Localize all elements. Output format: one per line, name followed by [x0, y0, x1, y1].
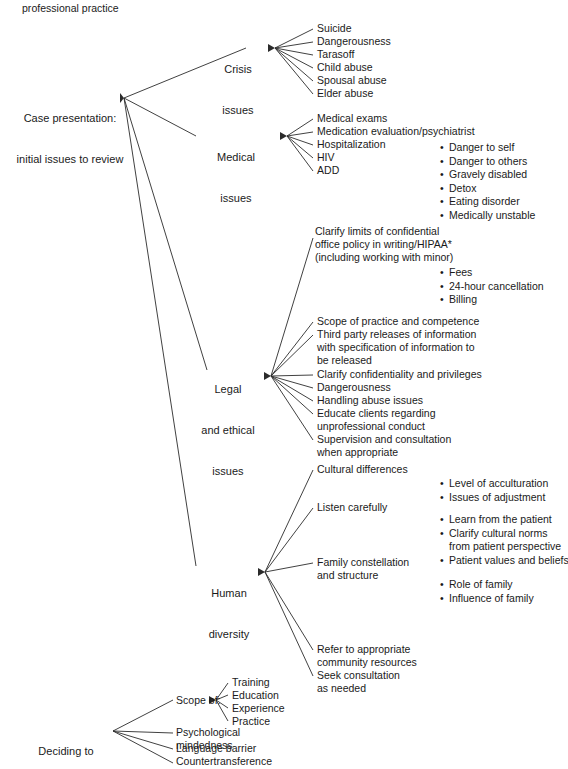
legal-label-line2: and ethical — [192, 424, 264, 438]
list-item: •Role of family — [440, 578, 534, 592]
bullet-text: Danger to others — [449, 155, 527, 167]
bullet-text: Gravely disabled — [449, 168, 527, 180]
medical-item: ADD — [317, 164, 339, 177]
legal-item-confidentiality: Clarify confidentiality and privileges — [317, 368, 482, 381]
page-header-fragment: professional practice — [22, 2, 119, 15]
bullet-dot: • — [440, 491, 444, 505]
list-item: •Danger to self — [440, 141, 535, 155]
bullet-dot: • — [440, 266, 444, 280]
legal-bullet-list-fees: •Fees •24-hour cancellation •Billing — [440, 266, 544, 307]
medical-item: HIV — [317, 151, 335, 164]
bullet-text: Learn from the patient — [449, 513, 552, 525]
diversity-bullet-group-acculturation: •Level of acculturation •Issues of adjus… — [440, 477, 548, 504]
bullet-dot: • — [440, 513, 444, 527]
legal-item-educate: Educate clients regarding unprofessional… — [317, 407, 436, 433]
legal-item-supervision: Supervision and consultation when approp… — [317, 433, 451, 459]
crisis-label-line1: Crisis — [208, 63, 268, 77]
bullet-text: Detox — [449, 182, 476, 194]
diversity-bullet-group-cultural-norms: •Learn from the patient •Clarify cultura… — [440, 513, 568, 567]
diversity-item-text: Refer to appropriate community resources — [317, 643, 417, 669]
list-item: •Fees — [440, 266, 544, 280]
medical-bullet-list: •Danger to self •Danger to others •Grave… — [440, 141, 535, 223]
bullet-text: Role of family — [449, 578, 513, 590]
bullet-text: Patient values and beliefs — [449, 554, 568, 566]
bullet-text: Fees — [449, 266, 472, 278]
legal-item-text: Third party releases of information with… — [317, 328, 476, 368]
legal-item-scope: Scope of practice and competence — [317, 315, 479, 328]
bullet-text: Medically unstable — [449, 209, 535, 221]
bullet-dot: • — [440, 527, 444, 541]
list-item: •Medically unstable — [440, 209, 535, 223]
deciding-item-countertransference: Countertransference — [176, 755, 272, 768]
bullet-dot: • — [440, 477, 444, 491]
diversity-item-seek-consultation: Seek consultation as needed — [317, 669, 400, 695]
medical-item: Medical exams — [317, 112, 387, 125]
medical-label-line1: Medical — [200, 151, 272, 165]
bullet-dot: • — [440, 293, 444, 307]
bullet-dot: • — [440, 280, 444, 294]
diversity-item-family: Family constellation and structure — [317, 556, 409, 582]
crisis-item: Suicide — [317, 22, 352, 35]
bullet-text: Influence of family — [449, 592, 534, 604]
list-item: •Issues of adjustment — [440, 491, 548, 505]
list-item: •Learn from the patient — [440, 513, 568, 527]
legal-label-line1: Legal — [192, 383, 264, 397]
list-item: •24-hour cancellation — [440, 280, 544, 294]
scope-item: Experience — [232, 702, 285, 715]
diversity-label-line2: diversity — [194, 628, 264, 642]
diversity-bullet-group-family: •Role of family •Influence of family — [440, 578, 534, 605]
scope-item: Education — [232, 689, 279, 702]
diversity-label-line1: Human — [194, 587, 264, 601]
crisis-item: Tarasoff — [317, 48, 354, 61]
diversity-item-cultural-differences: Cultural differences — [317, 463, 408, 476]
list-item: •Gravely disabled — [440, 168, 535, 182]
list-item: •Danger to others — [440, 155, 535, 169]
bullet-dot: • — [440, 578, 444, 592]
list-item: •Patient values and beliefs — [440, 554, 568, 568]
deciding-item-language-barrier: Language barrier — [176, 742, 256, 755]
crisis-item: Child abuse — [317, 61, 373, 74]
bullet-dot: • — [440, 592, 444, 606]
root-node-deciding: Deciding to accept the case — [18, 718, 114, 769]
branch-node-scope-of: Scope of: — [176, 694, 221, 707]
crisis-item: Elder abuse — [317, 87, 373, 100]
legal-item-confidentiality-limits: Clarify limits of confidential office po… — [315, 225, 453, 265]
bullet-text: 24-hour cancellation — [449, 280, 544, 292]
bullet-text: Clarify cultural norms from patient pers… — [449, 527, 561, 553]
bullet-text: Danger to self — [449, 141, 514, 153]
bullet-text: Eating disorder — [449, 195, 520, 207]
legal-item-text: Educate clients regarding unprofessional… — [317, 407, 436, 433]
bullet-dot: • — [440, 141, 444, 155]
branch-node-legal: Legal and ethical issues — [192, 356, 264, 506]
branch-node-medical: Medical issues — [200, 124, 272, 233]
legal-item-third-party: Third party releases of information with… — [317, 328, 476, 368]
legal-label-line3: issues — [192, 465, 264, 479]
medical-item: Medication evaluation/psychiatrist — [317, 125, 475, 138]
bullet-dot: • — [440, 168, 444, 182]
list-item: •Billing — [440, 293, 544, 307]
legal-item-text: Clarify limits of confidential office po… — [315, 225, 453, 265]
diversity-item-text: Seek consultation as needed — [317, 669, 400, 695]
bullet-dot: • — [440, 155, 444, 169]
list-item: •Clarify cultural norms from patient per… — [440, 527, 568, 554]
deciding-label-line1: Deciding to — [18, 745, 114, 759]
bullet-dot: • — [440, 195, 444, 209]
list-item: •Level of acculturation — [440, 477, 548, 491]
list-item: •Detox — [440, 182, 535, 196]
bullet-dot: • — [440, 182, 444, 196]
legal-item-abuse: Handling abuse issues — [317, 394, 423, 407]
crisis-item: Dangerousness — [317, 35, 391, 48]
bullet-dot: • — [440, 554, 444, 568]
list-item: •Influence of family — [440, 592, 534, 606]
diversity-item-text: Family constellation and structure — [317, 556, 409, 582]
crisis-label-line2: issues — [208, 104, 268, 118]
legal-item-dangerousness: Dangerousness — [317, 381, 391, 394]
diagram-canvas: professional practice Case presentation:… — [0, 0, 568, 769]
crisis-item: Spousal abuse — [317, 74, 387, 87]
bullet-dot: • — [440, 209, 444, 223]
bullet-text: Issues of adjustment — [449, 491, 545, 503]
legal-item-text: Supervision and consultation when approp… — [317, 433, 451, 459]
root-node-case-presentation: Case presentation: initial issues to rev… — [16, 85, 124, 194]
diversity-item-refer: Refer to appropriate community resources — [317, 643, 417, 669]
branch-node-human-diversity: Human diversity — [194, 560, 264, 669]
